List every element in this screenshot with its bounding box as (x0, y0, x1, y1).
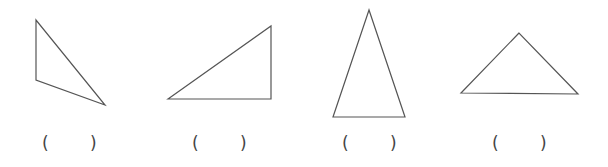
triangle-2-shape (168, 26, 271, 99)
open-paren: ( (492, 133, 499, 153)
open-paren: ( (42, 133, 49, 153)
open-paren: ( (192, 133, 199, 153)
answer-value[interactable] (202, 133, 238, 153)
triangle-4-shape (461, 33, 578, 94)
answer-value[interactable] (502, 133, 538, 153)
triangle-3-shape (333, 10, 405, 117)
close-paren: ) (240, 133, 247, 153)
close-paren: ) (390, 133, 397, 153)
close-paren: ) (540, 133, 547, 153)
close-paren: ) (90, 133, 97, 153)
open-paren: ( (342, 133, 349, 153)
triangle-1-shape (36, 20, 105, 105)
answer-value[interactable] (352, 133, 388, 153)
answer-value[interactable] (52, 133, 88, 153)
